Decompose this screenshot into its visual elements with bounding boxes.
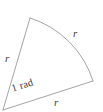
arc-path [30, 18, 93, 81]
radius-left-label: r [5, 53, 9, 64]
arc-length-label: r [73, 28, 77, 39]
radius-bottom-label: r [54, 97, 58, 108]
radius-left-line [3, 18, 30, 110]
sector-drawing [0, 0, 103, 112]
sector-figure: r r r 1 rad [0, 0, 103, 112]
